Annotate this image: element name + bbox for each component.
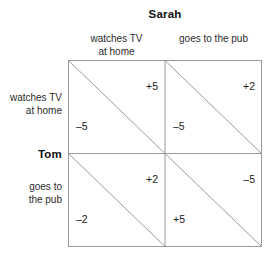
column-header-watches-tv-at-home: watches TVat home (68, 33, 165, 58)
row-header-goes-to-the-pub: goes tothe pub (0, 181, 62, 206)
payoff-row-player-cell-0-0: –5 (76, 120, 114, 132)
payoff-row-player-cell-1-1: +5 (173, 213, 211, 225)
row-header-watches-tv-at-home: watches TVat home (0, 92, 62, 117)
payoff-row-player-cell-0-1: –5 (173, 120, 211, 132)
payoff-column-player-cell-0-1: +2 (217, 80, 255, 92)
column-header-goes-to-the-pub: goes to the pub (165, 33, 262, 46)
payoff-column-player-cell-1-1: –5 (217, 173, 255, 185)
payoff-column-player-cell-1-0: +2 (120, 173, 158, 185)
payoff-matrix-figure: Sarah watches TVat home goes to the pub … (0, 0, 279, 262)
row-player-title: Tom (0, 148, 62, 160)
column-player-title: Sarah (68, 8, 262, 20)
payoff-column-player-cell-0-0: +5 (120, 80, 158, 92)
cell-diagonal-1-0 (69, 154, 166, 247)
cell-diagonal-0-0 (69, 61, 166, 154)
cell-diagonal-0-1 (165, 61, 262, 154)
cell-diagonal-1-1 (165, 154, 262, 247)
payoff-row-player-cell-1-0: –2 (76, 213, 114, 225)
matrix-grid: +5 –5 +2 –5 +2 –2 –5 +5 (68, 60, 262, 247)
